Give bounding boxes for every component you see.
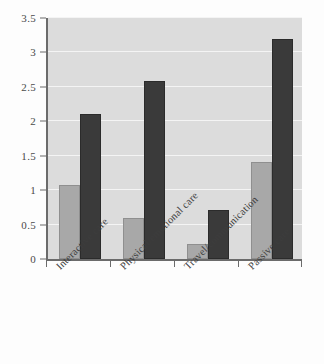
y-axis-ticklabel: 0 [30, 253, 36, 265]
y-axis-ticklabel: 1.5 [21, 150, 36, 162]
x-axis-labels: Interactive carePhysical/emotional careT… [46, 264, 316, 364]
plot-area [46, 18, 302, 261]
y-axis-ticklabel: 3 [30, 46, 36, 58]
y-axis-ticklabel: 0.5 [21, 219, 36, 231]
y-axis: 00.511.522.533.5 [0, 0, 46, 364]
y-axis-ticklabel: 2 [30, 115, 36, 127]
gridline [48, 17, 302, 18]
y-axis-ticklabel: 3.5 [21, 12, 36, 24]
y-axis-ticklabel: 1 [30, 184, 36, 196]
gridline [48, 86, 302, 87]
y-axis-ticklabel: 2.5 [21, 81, 36, 93]
gridline [48, 51, 302, 52]
bar-chart-figure: 00.511.522.533.5 Interactive carePhysica… [0, 0, 324, 364]
